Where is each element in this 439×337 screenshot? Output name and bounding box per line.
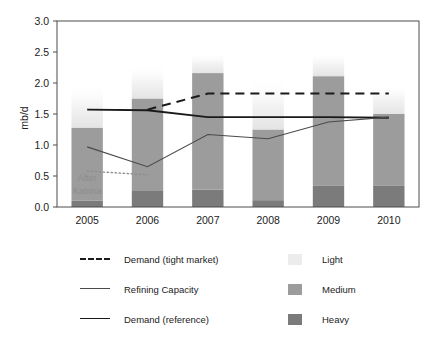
y-tick-label-1.5: 1.5 [34, 108, 49, 120]
legend-line-swatch-demand-reference [80, 314, 110, 324]
y-tick-label-1.0: 1.0 [34, 139, 49, 151]
bar-segment-heavy-2009 [313, 186, 344, 207]
legend-line-item: Demand (reference) [80, 311, 209, 327]
legend-line-swatch-refining-capacity [80, 284, 110, 294]
y-tick-label-0.0: 0.0 [34, 201, 49, 213]
bar-segment-light-2006 [132, 64, 163, 98]
legend-color-swatch-medium [288, 284, 302, 295]
bar-segment-heavy-2007 [192, 190, 223, 207]
bar-segment-light-2007 [192, 52, 223, 73]
x-tick-label-2007: 2007 [196, 214, 220, 226]
y-tick-label-0.5: 0.5 [34, 170, 49, 182]
bar-segment-medium-2008 [252, 130, 283, 201]
legend-line-swatch-demand-tight-market [80, 254, 110, 264]
y-axis-ticks: 0.00.51.01.52.02.53.0 [34, 15, 57, 213]
x-tick-label-2005: 2005 [75, 214, 99, 226]
bar-segment-light-2009 [313, 52, 344, 76]
chart-legend: Demand (tight market)Refining CapacityDe… [0, 243, 439, 337]
x-tick-label-2010: 2010 [377, 214, 401, 226]
chart-figure: AfterKatrina 0.00.51.01.52.02.53.0 20052… [0, 0, 439, 337]
legend-line-item: Refining Capacity [80, 281, 198, 297]
bar-segment-heavy-2006 [132, 190, 163, 207]
y-axis-title: mb/d [18, 106, 30, 130]
legend-label: Demand (reference) [124, 314, 209, 325]
annotation-after-katrina-line1: After [78, 173, 97, 183]
legend-swatch-item: Light [288, 251, 343, 267]
legend-swatch-item: Heavy [288, 311, 349, 327]
legend-label: Refining Capacity [124, 284, 198, 295]
legend-line-item: Demand (tight market) [80, 251, 219, 267]
bar-segment-heavy-2005 [71, 201, 102, 207]
y-tick-label-2.0: 2.0 [34, 77, 49, 89]
y-tick-label-3.0: 3.0 [34, 15, 49, 27]
bar-segment-medium-2007 [192, 73, 223, 190]
bar-segment-medium-2010 [373, 114, 404, 186]
x-tick-label-2006: 2006 [136, 214, 160, 226]
annotation-after-katrina-line2: Katrina [73, 186, 102, 196]
bar-segment-light-2005 [71, 83, 102, 128]
legend-label: Medium [322, 284, 356, 295]
legend-swatch-item: Medium [288, 281, 356, 297]
bar-segment-light-2008 [252, 77, 283, 130]
bar-segment-heavy-2008 [252, 200, 283, 207]
x-axis-ticks: 200520062007200820092010 [75, 214, 400, 226]
legend-color-swatch-light [288, 254, 302, 265]
bar-segment-light-2010 [373, 83, 404, 114]
x-tick-label-2008: 2008 [256, 214, 280, 226]
bar-segment-heavy-2010 [373, 186, 404, 207]
legend-label: Demand (tight market) [124, 254, 219, 265]
y-tick-label-2.5: 2.5 [34, 46, 49, 58]
legend-color-swatch-heavy [288, 314, 302, 325]
x-tick-label-2009: 2009 [317, 214, 341, 226]
legend-label: Heavy [322, 314, 349, 325]
legend-label: Light [322, 254, 343, 265]
plot-background [57, 21, 419, 207]
